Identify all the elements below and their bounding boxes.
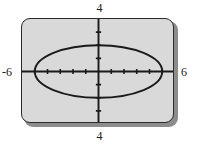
plot-canvas [22,19,174,123]
window-label-xmax: 6 [181,66,197,78]
calculator-graph-figure: 4 -6 6 4 [0,0,199,145]
window-label-xmin: -6 [2,66,22,78]
calculator-screen [21,18,174,123]
calculator-screen-bezel [21,18,178,127]
window-label-ymin: 4 [0,130,199,142]
window-label-ymax: 4 [0,2,199,14]
plot-group [22,19,174,123]
